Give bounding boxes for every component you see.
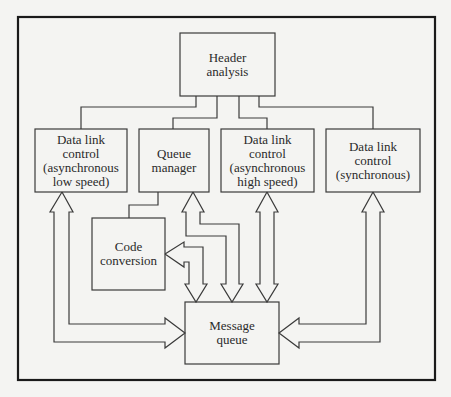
dlc-high-speed-label: Data link control (asynchronous high spe… [221, 129, 314, 192]
dlc-low-speed-text: Data link control (asynchronous low spee… [43, 133, 119, 189]
header-analysis-label: Header analysis [180, 33, 275, 96]
dlc-synchronous-label: Data link control (synchronous) [326, 129, 420, 192]
header-analysis-text: Header analysis [207, 51, 249, 79]
connector-header-dlc-low [81, 96, 196, 129]
message-queue-label: Message queue [185, 302, 279, 364]
queue-manager-text: Queue manager [152, 147, 197, 175]
dlc-high-speed-text: Data link control (asynchronous high spe… [230, 133, 306, 189]
code-conversion-label: Code conversion [92, 218, 165, 290]
arrow-dlc-sync-message-queue [279, 192, 384, 348]
dlc-synchronous-text: Data link control (synchronous) [336, 140, 410, 182]
arrow-dlc-high-message-queue [256, 192, 278, 302]
dlc-low-speed-label: Data link control (asynchronous low spee… [35, 129, 127, 192]
connector-header-dlc-sync [259, 96, 373, 129]
connector-header-queue-manager [173, 96, 217, 129]
arrow-code-conversion-message-queue [165, 242, 207, 302]
connector-queue-manager-code-conversion [129, 192, 158, 218]
queue-manager-label: Queue manager [139, 129, 209, 192]
connector-header-dlc-high [239, 96, 267, 129]
message-queue-text: Message queue [209, 319, 255, 347]
code-conversion-text: Code conversion [100, 240, 157, 268]
